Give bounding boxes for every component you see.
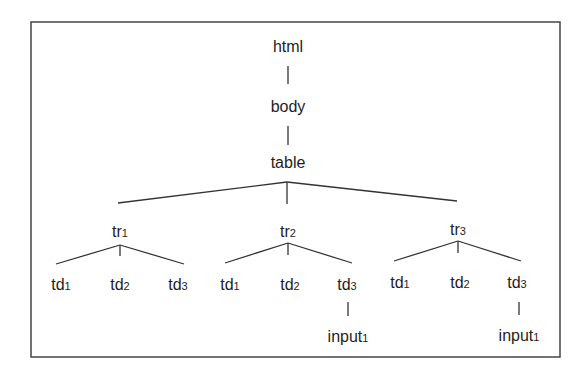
node-label: td (51, 276, 64, 293)
node-subscript: 3 (182, 280, 188, 292)
node-subscript: 3 (460, 225, 466, 237)
node-subscript: 1 (404, 278, 410, 290)
node-subscript: 2 (294, 280, 300, 292)
node-label: td (110, 276, 123, 293)
node-tr3-input1: input1 (499, 327, 540, 344)
node-label: table (271, 154, 306, 171)
node-subscript: 2 (464, 278, 470, 290)
node-label: input (328, 328, 363, 345)
node-subscript: 1 (122, 227, 128, 239)
node-label: td (337, 276, 350, 293)
node-subscript: 1 (234, 280, 240, 292)
node-subscript: 3 (351, 280, 357, 292)
node-label: body (271, 98, 306, 115)
node-subscript: 2 (124, 280, 130, 292)
diagram-frame (31, 22, 560, 357)
dom-tree-diagram: htmlbodytabletr1tr2tr3td1td2td3td1td2td3… (0, 0, 588, 377)
node-subscript: 1 (65, 280, 71, 292)
node-tr2-input1: input1 (328, 328, 369, 345)
node-label: td (168, 276, 181, 293)
node-label: html (273, 38, 303, 55)
node-label: td (390, 274, 403, 291)
node-subscript: 1 (362, 332, 368, 344)
node-label: td (280, 276, 293, 293)
node-subscript: 3 (521, 278, 527, 290)
node-table: table (271, 154, 306, 171)
node-label: td (507, 274, 520, 291)
node-html: html (273, 38, 303, 55)
node-label: input (499, 327, 534, 344)
node-body: body (271, 98, 306, 115)
node-label: td (220, 276, 233, 293)
node-subscript: 1 (533, 331, 539, 343)
node-subscript: 2 (290, 227, 296, 239)
node-label: td (450, 274, 463, 291)
